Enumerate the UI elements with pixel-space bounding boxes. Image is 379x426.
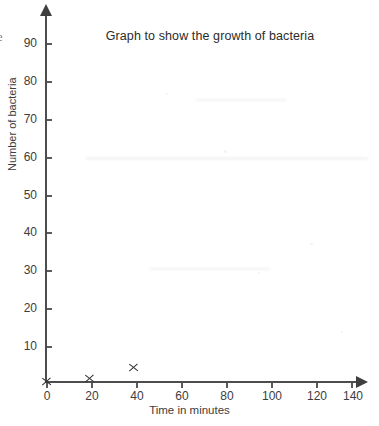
x-axis-tick [226,383,228,388]
y-tick-label: 90 [9,37,37,49]
scan-speckle [310,243,313,245]
y-axis-tick [47,43,52,45]
data-point-marker [128,362,139,373]
scan-speckle [341,331,343,333]
x-tick-label: 100 [257,390,287,402]
x-tick-label: 140 [338,390,368,402]
data-point-marker [41,377,52,388]
scan-smudge [86,157,368,160]
y-axis-line [45,14,47,382]
scan-speckle [166,93,168,95]
x-tick-label: 60 [167,390,197,402]
y-tick-label: 30 [9,264,37,276]
y-axis-tick [47,81,52,83]
x-tick-label: 20 [77,390,107,402]
y-axis-tick [47,308,52,310]
x-axis-tick [351,383,353,388]
x-tick-label: 40 [122,390,152,402]
y-axis-tick [47,195,52,197]
data-point-marker [84,373,95,384]
y-axis-arrowhead [40,4,52,16]
x-tick-label: 80 [212,390,242,402]
y-tick-label: 40 [9,226,37,238]
scan-smudge [196,99,286,101]
edge-scan-glyph: e [0,30,6,44]
scan-speckle [224,150,227,153]
y-tick-label: 10 [9,340,37,352]
y-axis-tick [47,119,52,121]
x-axis-tick [271,383,273,388]
x-axis-tick [181,383,183,388]
x-tick-label: 0 [32,390,62,402]
y-tick-label: 20 [9,302,37,314]
x-axis-label: Time in minutes [0,404,379,416]
y-axis-label: Number of bacteria [6,155,18,171]
y-tick-label: 50 [9,189,37,201]
chart-title: Graph to show the growth of bacteria [60,29,360,43]
y-axis-tick [47,346,52,348]
scan-smudge [150,268,270,270]
x-axis-arrowhead [356,376,368,388]
scan-speckle [258,272,260,274]
chart-page: e Graph to show the growth of bacteria 9… [0,0,379,426]
x-axis-tick [136,383,138,388]
y-axis-tick [47,270,52,272]
x-tick-label: 120 [302,390,332,402]
y-axis-tick [47,232,52,234]
x-axis-tick [316,383,318,388]
y-axis-tick [47,157,52,159]
